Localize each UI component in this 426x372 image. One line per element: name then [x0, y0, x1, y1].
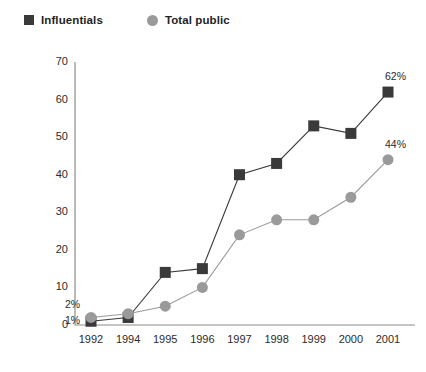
data-point-circle: [383, 154, 394, 165]
data-point-circle: [86, 312, 97, 323]
x-tick-label-1998: 1998: [257, 333, 297, 345]
y-tick-label-70: 70: [42, 55, 68, 67]
y-tick-label-30: 30: [42, 205, 68, 217]
x-tick-label-1997: 1997: [220, 333, 260, 345]
data-point-circle: [197, 282, 208, 293]
chart-container: Influentials Total public 01020304050607…: [0, 0, 426, 372]
data-point-square: [383, 87, 394, 98]
annotation-2pct: 2%: [65, 298, 80, 310]
annotation-1pct: 1%: [65, 314, 80, 326]
y-tick-label-40: 40: [42, 168, 68, 180]
data-point-circle: [271, 214, 282, 225]
data-point-circle: [234, 229, 245, 240]
series-influentials: [86, 87, 394, 327]
plot-area: 010203040506070 199219941995199619971998…: [0, 0, 426, 372]
data-point-circle: [308, 214, 319, 225]
x-tick-label-2001: 2001: [368, 333, 408, 345]
y-tick-label-60: 60: [42, 93, 68, 105]
series-line: [91, 92, 388, 321]
data-point-circle: [345, 192, 356, 203]
x-tick-label-1995: 1995: [145, 333, 185, 345]
annotation-44pct: 44%: [385, 138, 406, 150]
annotation-62pct: 62%: [385, 70, 406, 82]
data-point-circle: [123, 308, 134, 319]
x-tick-label-1996: 1996: [182, 333, 222, 345]
data-point-square: [345, 128, 356, 139]
data-point-square: [308, 120, 319, 131]
data-point-square: [234, 169, 245, 180]
x-tick-label-1999: 1999: [294, 333, 334, 345]
data-point-circle: [160, 301, 171, 312]
data-point-square: [160, 267, 171, 278]
x-tick-label-1992: 1992: [71, 333, 111, 345]
chart-axes: [75, 62, 415, 325]
chart-series-group: [86, 87, 394, 327]
x-tick-label-2000: 2000: [331, 333, 371, 345]
x-tick-label-1994: 1994: [108, 333, 148, 345]
y-tick-label-50: 50: [42, 130, 68, 142]
data-point-square: [271, 158, 282, 169]
y-tick-label-20: 20: [42, 243, 68, 255]
y-tick-label-10: 10: [42, 280, 68, 292]
data-point-square: [197, 263, 208, 274]
